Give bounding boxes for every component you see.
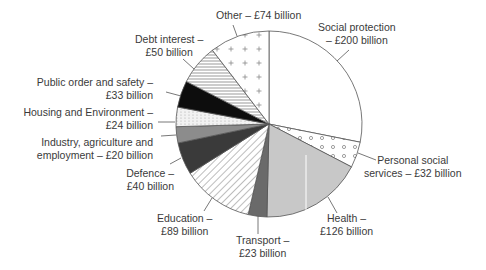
label-industry: Industry, agriculture and employment – £… <box>37 136 153 162</box>
label-social-protection: Social protection – £200 billion <box>318 21 396 47</box>
label-health: Health – £126 billion <box>320 212 373 238</box>
label-defence: Defence – £40 billion <box>126 167 174 193</box>
label-public-order: Public order and safety – £33 billion <box>37 76 153 102</box>
label-debt-interest: Debt interest – £50 billion <box>135 33 203 59</box>
label-other: Other – £74 billion <box>216 9 301 22</box>
label-housing: Housing and Environment – £24 billion <box>23 106 153 132</box>
label-education: Education – £89 billion <box>157 212 212 238</box>
pie-chart <box>0 0 486 270</box>
label-personal-social-services: Personal social services – £32 billion <box>364 154 461 180</box>
slice-social-protection <box>269 31 362 142</box>
label-transport: Transport – £23 billion <box>236 234 289 260</box>
